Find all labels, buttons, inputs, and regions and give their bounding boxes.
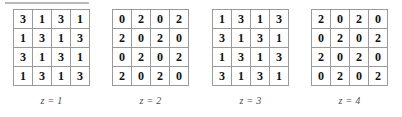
grid-row: 3131	[213, 29, 289, 48]
grid-cell: 0	[151, 10, 170, 29]
value-grid: 3131131331311313	[13, 9, 90, 86]
grid-cell: 1	[14, 67, 33, 86]
grid-cell: 1	[270, 67, 289, 86]
grid-row: 1313	[14, 29, 90, 48]
grid-row: 3131	[14, 10, 90, 29]
grid-cell: 2	[170, 10, 189, 29]
panel-caption: z = 2	[139, 95, 161, 106]
grid-cell: 0	[113, 48, 132, 67]
grid-row: 2020	[312, 48, 388, 67]
grid-cell: 3	[52, 10, 71, 29]
grid-cell: 2	[369, 29, 388, 48]
grid-cell: 3	[71, 67, 90, 86]
grid-cell: 1	[33, 48, 52, 67]
grid-panel-4: 2020020220200202z = 4	[311, 9, 388, 106]
grid-panel-1: 3131131331311313z = 1	[13, 9, 90, 106]
grid-row: 0202	[113, 10, 189, 29]
grid-cell: 3	[33, 67, 52, 86]
grid-cell: 3	[232, 10, 251, 29]
value-grid: 1313313113133131	[212, 9, 289, 86]
grid-cell: 3	[270, 48, 289, 67]
grid-cell: 1	[232, 29, 251, 48]
top-rule-divider	[5, 2, 89, 4]
grid-panels-row: 3131131331311313z = 10202202002022020z =…	[0, 9, 402, 109]
grid-row: 0202	[312, 67, 388, 86]
grid-cell: 3	[71, 29, 90, 48]
grid-cell: 1	[14, 29, 33, 48]
grid-cell: 0	[331, 48, 350, 67]
grid-row: 3131	[14, 48, 90, 67]
grid-cell: 3	[213, 29, 232, 48]
grid-panel-2: 0202202002022020z = 2	[112, 9, 189, 106]
grid-cell: 2	[312, 48, 331, 67]
grid-cell: 1	[71, 48, 90, 67]
grid-cell: 1	[213, 10, 232, 29]
value-grid: 0202202002022020	[112, 9, 189, 86]
panel-caption: z = 1	[40, 95, 62, 106]
grid-cell: 2	[331, 67, 350, 86]
grid-cell: 2	[113, 67, 132, 86]
grid-cell: 2	[113, 29, 132, 48]
panel-caption: z = 3	[239, 95, 261, 106]
grid-row: 1313	[213, 48, 289, 67]
grid-cell: 0	[113, 10, 132, 29]
grid-cell: 3	[232, 48, 251, 67]
grid-cell: 1	[251, 10, 270, 29]
grid-cell: 1	[270, 29, 289, 48]
panel-caption: z = 4	[338, 95, 360, 106]
grid-cell: 2	[170, 48, 189, 67]
grid-cell: 2	[331, 29, 350, 48]
grid-cell: 0	[132, 67, 151, 86]
grid-cell: 0	[170, 29, 189, 48]
grid-cell: 2	[132, 48, 151, 67]
grid-cell: 2	[132, 10, 151, 29]
grid-row: 1313	[14, 67, 90, 86]
grid-cell: 1	[33, 10, 52, 29]
grid-cell: 3	[14, 10, 33, 29]
grid-cell: 2	[350, 48, 369, 67]
grid-row: 2020	[113, 29, 189, 48]
grid-cell: 3	[14, 48, 33, 67]
grid-cell: 2	[369, 67, 388, 86]
grid-cell: 0	[331, 10, 350, 29]
grid-cell: 2	[312, 10, 331, 29]
grid-cell: 0	[132, 29, 151, 48]
grid-row: 2020	[113, 67, 189, 86]
grid-cell: 3	[33, 29, 52, 48]
grid-cell: 2	[151, 29, 170, 48]
grid-cell: 0	[369, 48, 388, 67]
grid-cell: 3	[251, 29, 270, 48]
grid-cell: 0	[350, 29, 369, 48]
grid-cell: 1	[232, 67, 251, 86]
grid-cell: 1	[213, 48, 232, 67]
grid-cell: 3	[251, 67, 270, 86]
grid-cell: 3	[270, 10, 289, 29]
grid-cell: 3	[52, 48, 71, 67]
grid-cell: 0	[151, 48, 170, 67]
grid-row: 1313	[213, 10, 289, 29]
grid-cell: 1	[71, 10, 90, 29]
grid-row: 2020	[312, 10, 388, 29]
grid-cell: 2	[151, 67, 170, 86]
grid-row: 0202	[113, 48, 189, 67]
grid-cell: 2	[350, 10, 369, 29]
grid-cell: 0	[369, 10, 388, 29]
grid-cell: 0	[350, 67, 369, 86]
grid-cell: 3	[213, 67, 232, 86]
grid-cell: 1	[251, 48, 270, 67]
grid-row: 0202	[312, 29, 388, 48]
grid-cell: 0	[170, 67, 189, 86]
grid-cell: 1	[52, 29, 71, 48]
grid-cell: 0	[312, 29, 331, 48]
grid-row: 3131	[213, 67, 289, 86]
grid-cell: 0	[312, 67, 331, 86]
value-grid: 2020020220200202	[311, 9, 388, 86]
grid-cell: 1	[52, 67, 71, 86]
figure-container: 3131131331311313z = 10202202002022020z =…	[0, 0, 402, 117]
grid-panel-3: 1313313113133131z = 3	[212, 9, 289, 106]
